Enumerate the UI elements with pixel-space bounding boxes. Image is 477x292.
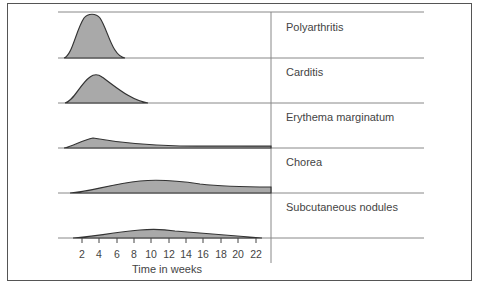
tick-label: 4 [96, 248, 102, 260]
tick-label: 2 [79, 248, 85, 260]
row-label-chorea: Chorea [286, 156, 322, 168]
tick-label: 16 [197, 248, 209, 260]
tick-label: 8 [131, 248, 137, 260]
x-axis-label: Time in weeks [132, 263, 202, 275]
x-axis-ticks [82, 238, 256, 243]
chorea-area [70, 180, 271, 193]
carditis-area [65, 75, 148, 103]
row-label-erythema-marginatum: Erythema marginatum [286, 111, 394, 123]
row-label-subcutaneous-nodules: Subcutaneous nodules [286, 201, 398, 213]
tick-label: 22 [250, 248, 262, 260]
tick-label: 14 [180, 248, 192, 260]
row-label-carditis: Carditis [286, 66, 323, 78]
row-label-polyarthritis: Polyarthritis [286, 21, 343, 33]
erythema-marginatum-area [64, 138, 271, 148]
subcutaneous-nodules-area [73, 229, 262, 238]
polyarthritis-area [64, 14, 125, 58]
tick-label: 10 [145, 248, 157, 260]
tick-label: 20 [232, 248, 244, 260]
tick-label: 6 [114, 248, 120, 260]
tick-label: 12 [163, 248, 175, 260]
tick-label: 18 [215, 248, 227, 260]
